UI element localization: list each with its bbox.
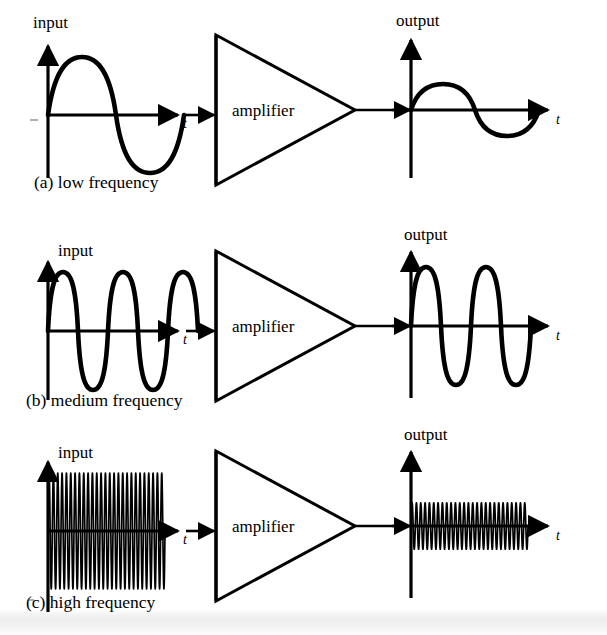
amplifier-label: amplifier — [232, 517, 295, 536]
input-waveform-c — [48, 473, 165, 589]
output-axis-label: output — [396, 11, 440, 30]
row-b: input t amplifier output t (b) medium fr… — [26, 225, 561, 410]
output-time-label: t — [556, 328, 561, 343]
output-axis-label: output — [404, 425, 448, 444]
row-c-caption: (c) high frequency — [26, 592, 155, 612]
row-a-amplifier: amplifier — [186, 35, 410, 185]
input-time-label: t — [183, 332, 188, 347]
row-b-caption: (b) medium frequency — [26, 390, 183, 410]
row-a-output-plot: output t — [396, 11, 561, 178]
row-c-input-plot: input t — [48, 443, 188, 612]
row-a-caption: (a) low frequency — [34, 172, 159, 192]
row-c: input t amplifier output t (c) high freq… — [26, 425, 561, 612]
row-b-input-plot: input t — [48, 241, 198, 400]
output-waveform-c — [411, 503, 528, 549]
row-c-amplifier: amplifier — [186, 451, 410, 601]
row-a-input-plot: input t — [33, 13, 188, 178]
row-b-output-plot: output t — [404, 225, 561, 398]
input-axis-label: input — [33, 13, 68, 32]
input-time-label: t — [183, 532, 188, 547]
input-axis-label: input — [58, 443, 93, 462]
amplifier-frequency-response-figure: input t amplifier output t (a) low frequ… — [0, 0, 607, 635]
amplifier-label: amplifier — [232, 317, 295, 336]
row-b-amplifier: amplifier — [186, 251, 410, 401]
row-a: input t amplifier output t (a) low frequ… — [30, 11, 561, 192]
figure-canvas: input t amplifier output t (a) low frequ… — [0, 0, 607, 635]
amplifier-label: amplifier — [232, 101, 295, 120]
input-axis-label: input — [58, 241, 93, 260]
output-time-label: t — [556, 112, 561, 127]
output-axis-label: output — [404, 225, 448, 244]
row-c-output-plot: output t — [404, 425, 561, 598]
output-time-label: t — [556, 528, 561, 543]
